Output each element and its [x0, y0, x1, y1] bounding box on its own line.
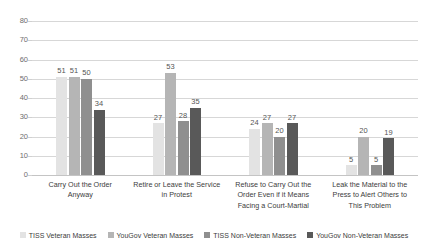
- bar[interactable]: [371, 165, 382, 175]
- y-axis-tick-label: 0: [2, 171, 28, 179]
- y-axis-tick-label: 50: [2, 75, 28, 83]
- bar[interactable]: [262, 123, 273, 175]
- legend-label: TISS Veteran Masses: [29, 232, 97, 239]
- bar-slot: 24: [249, 21, 260, 175]
- category-label: Refuse to Carry Out theOrder Even if it …: [225, 180, 322, 224]
- bar-slot: 50: [81, 21, 92, 175]
- bar-value-label: 5: [374, 156, 378, 164]
- y-axis-tick-label: 60: [2, 56, 28, 64]
- bar-value-label: 24: [250, 119, 258, 127]
- bar-slot: 5: [346, 21, 357, 175]
- legend-item[interactable]: TISS Veteran Masses: [20, 232, 97, 239]
- bar-value-label: 5: [349, 156, 353, 164]
- bar-slot: 20: [358, 21, 369, 175]
- bar-chart: 80706050403020100 5151503427532835242720…: [0, 0, 428, 246]
- bar[interactable]: [249, 129, 260, 175]
- bar-slot: 28: [178, 21, 189, 175]
- y-axis-tick-label: 20: [2, 133, 28, 141]
- bar-slot: 51: [56, 21, 67, 175]
- bar-value-label: 27: [288, 114, 296, 122]
- bar-value-label: 27: [263, 114, 271, 122]
- bar-value-label: 28: [179, 112, 187, 120]
- bar-slot: 20: [274, 21, 285, 175]
- bar-slot: 51: [69, 21, 80, 175]
- category-axis-labels: Carry Out the OrderAnywayRetire or Leave…: [32, 180, 418, 224]
- legend-swatch-icon: [108, 232, 114, 238]
- y-axis-tick-label: 40: [2, 94, 28, 102]
- category-label: Retire or Leave the Servicein Protest: [129, 180, 226, 224]
- bar-value-label: 20: [359, 127, 367, 135]
- bar-value-label: 35: [191, 98, 199, 106]
- bar[interactable]: [178, 121, 189, 175]
- bar-slot: 34: [94, 21, 105, 175]
- bar-slot: 35: [190, 21, 201, 175]
- legend-item[interactable]: YouGov Veteran Masses: [108, 232, 194, 239]
- legend-label: YouGov Non-Veteran Masses: [316, 232, 408, 239]
- legend-label: TISS Non-Veteran Masses: [213, 232, 296, 239]
- legend-item[interactable]: YouGov Non-Veteran Masses: [307, 232, 408, 239]
- bar[interactable]: [94, 110, 105, 175]
- y-axis-tick-label: 30: [2, 114, 28, 122]
- bar[interactable]: [69, 77, 80, 175]
- chart-legend: TISS Veteran MassesYouGov Veteran Masses…: [0, 228, 428, 242]
- legend-swatch-icon: [20, 232, 26, 238]
- bar-value-label: 51: [57, 67, 65, 75]
- bar[interactable]: [358, 137, 369, 176]
- y-axis-tick-label: 70: [2, 37, 28, 45]
- bar-value-label: 34: [95, 100, 103, 108]
- plot-area: 515150342753283524272027520519: [32, 21, 418, 175]
- legend-label: YouGov Veteran Masses: [117, 232, 194, 239]
- gridline: [32, 175, 418, 176]
- bar[interactable]: [56, 77, 67, 175]
- chart-title: [0, 0, 428, 2]
- bar-value-label: 20: [275, 127, 283, 135]
- legend-swatch-icon: [204, 232, 210, 238]
- bar-group: 27532835: [129, 21, 226, 175]
- bar[interactable]: [346, 165, 357, 175]
- bar[interactable]: [165, 73, 176, 175]
- bar-value-label: 19: [384, 129, 392, 137]
- category-label: Carry Out the OrderAnyway: [32, 180, 129, 224]
- bar-value-label: 50: [82, 69, 90, 77]
- bar-group: 51515034: [32, 21, 129, 175]
- bar[interactable]: [383, 138, 394, 175]
- bar-slot: 27: [287, 21, 298, 175]
- bar-slot: 19: [383, 21, 394, 175]
- y-axis: 80706050403020100: [0, 21, 28, 175]
- y-axis-tick-label: 80: [2, 17, 28, 25]
- bar-slot: 53: [165, 21, 176, 175]
- bar-slot: 5: [371, 21, 382, 175]
- y-axis-tick-label: 10: [2, 152, 28, 160]
- legend-swatch-icon: [307, 232, 313, 238]
- bar-slot: 27: [262, 21, 273, 175]
- bar-group: 24272027: [225, 21, 322, 175]
- bar-group: 520519: [322, 21, 419, 175]
- bar[interactable]: [190, 108, 201, 175]
- bar[interactable]: [274, 137, 285, 176]
- bar[interactable]: [287, 123, 298, 175]
- y-axis-tick: [28, 175, 32, 176]
- bar-value-label: 53: [166, 63, 174, 71]
- bar-value-label: 27: [154, 114, 162, 122]
- category-label: Leak the Material to thePress to Alert O…: [322, 180, 419, 224]
- legend-item[interactable]: TISS Non-Veteran Masses: [204, 232, 296, 239]
- bar-slot: 27: [153, 21, 164, 175]
- bar[interactable]: [153, 123, 164, 175]
- bar-groups: 515150342753283524272027520519: [32, 21, 418, 175]
- bar-value-label: 51: [70, 67, 78, 75]
- bar[interactable]: [81, 79, 92, 175]
